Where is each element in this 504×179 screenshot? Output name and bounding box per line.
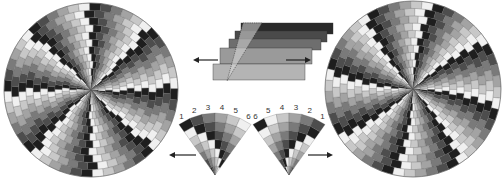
segment-number: 2 <box>308 106 313 115</box>
segment-number: 3 <box>206 103 211 112</box>
quilt-cell <box>418 16 428 25</box>
quilt-cell <box>362 91 370 98</box>
quilt-cell <box>120 86 127 91</box>
quilt-cell <box>93 154 103 162</box>
segment-number: 4 <box>220 103 225 112</box>
quilt-cell <box>408 155 418 162</box>
quilt-cell <box>442 86 449 91</box>
quilt-cell <box>325 91 333 103</box>
diagram-canvas: 123456 654321 <box>0 0 504 179</box>
quilt-cell <box>354 86 361 94</box>
quilt-cell <box>412 125 418 133</box>
quilt-cell <box>405 147 414 155</box>
quilt-cell <box>398 154 408 163</box>
segment-number: 5 <box>234 106 239 115</box>
quilt-cell <box>26 88 33 97</box>
segment-number: 5 <box>266 106 271 115</box>
quilt-cell <box>86 39 93 46</box>
quilt-cell <box>408 45 414 53</box>
quilt-cell <box>141 81 149 89</box>
quilt-cell <box>471 80 479 89</box>
quilt-cell <box>87 162 97 169</box>
quilt-cell <box>479 85 486 95</box>
segment-number: 3 <box>294 103 299 112</box>
quilt-cell <box>87 54 92 61</box>
segment-number: 2 <box>192 106 197 115</box>
quilt-cell <box>415 169 427 177</box>
quilt-cell <box>399 1 411 9</box>
quilt-cell <box>90 3 101 11</box>
quilt-cell <box>83 155 92 163</box>
quilt-cell <box>40 89 47 96</box>
quilt-cell <box>80 147 89 155</box>
quilt-cell <box>4 91 12 102</box>
quilt-cell <box>464 91 472 99</box>
quilt-cell <box>413 147 422 155</box>
quilt-cell <box>89 18 98 26</box>
fabric-strip <box>213 64 305 80</box>
segment-number: 6 <box>253 112 258 121</box>
quilt-cell <box>33 84 40 92</box>
quilt-cell <box>408 133 415 140</box>
quilt-cell <box>463 76 471 84</box>
quilt-cell <box>19 82 27 91</box>
quilt-cell <box>411 162 422 170</box>
left-wedge <box>179 113 251 175</box>
quilt-cell <box>456 80 464 87</box>
segment-number: 4 <box>280 103 285 112</box>
quilt-cell <box>93 140 101 148</box>
quilt-cell <box>89 47 95 54</box>
quilt-cell <box>478 75 486 85</box>
quilt-cell <box>415 132 422 140</box>
quilt-cell <box>404 8 415 16</box>
wedge-cell <box>276 113 289 123</box>
quilt-cell <box>486 80 494 91</box>
quilt-cell <box>409 16 419 23</box>
quilt-cell <box>163 83 170 93</box>
quilt-cell <box>48 86 55 92</box>
quilt-cell <box>92 169 103 177</box>
quilt-cell <box>340 84 347 94</box>
quilt-cell <box>355 94 363 102</box>
segment-number: 1 <box>179 112 184 121</box>
quilt-cell <box>408 30 416 37</box>
quilt-cell <box>413 23 422 31</box>
quilt-cell <box>340 93 348 103</box>
quilt-cell <box>85 25 94 32</box>
quilt-cell <box>82 32 90 40</box>
quilt-cell <box>11 86 18 96</box>
quilt-cell <box>90 119 95 126</box>
quilt-cell <box>457 87 464 94</box>
quilt-cell <box>376 87 383 92</box>
quilt-cell <box>332 77 340 88</box>
quilt-cell <box>369 88 377 94</box>
quilt-cell <box>325 80 333 92</box>
quilt-cell <box>362 84 369 91</box>
quilt-cell <box>127 88 134 94</box>
wedge-cell <box>215 113 228 123</box>
quilt-cell <box>80 18 90 26</box>
quilt-cell <box>411 118 416 125</box>
quilt-cell <box>26 79 34 88</box>
quilt-cell <box>332 87 340 98</box>
quilt-cell <box>347 81 355 90</box>
quilt-cell <box>411 1 423 9</box>
right-spiral-circle <box>325 1 501 177</box>
wedge-cell <box>289 113 302 123</box>
quilt-cell <box>78 3 89 11</box>
quilt-cell <box>404 23 413 31</box>
arrow-left-icon <box>193 57 218 63</box>
quilt-cell <box>162 93 170 104</box>
quilt-cell <box>33 92 41 100</box>
quilt-cell <box>403 140 411 148</box>
quilt-cell <box>404 169 416 177</box>
quilt-cell <box>149 84 156 93</box>
quilt-cell <box>81 169 92 177</box>
quilt-cell <box>347 89 355 98</box>
quilt-cell <box>404 38 411 46</box>
quilt-cell <box>87 126 93 133</box>
quilt-cell <box>493 75 501 87</box>
quilt-cell <box>411 38 418 45</box>
quilt-cell <box>77 161 88 169</box>
quilt-cell <box>19 92 27 102</box>
